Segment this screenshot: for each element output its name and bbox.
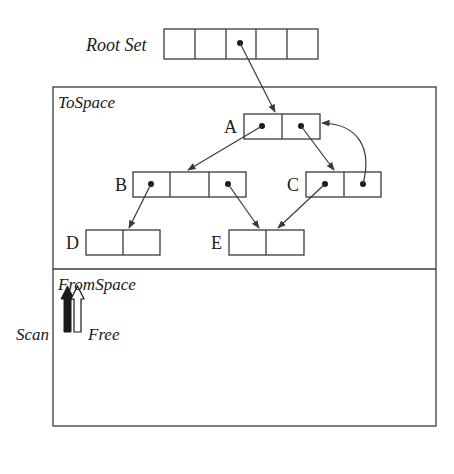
- from-space-label: FromSpace: [57, 275, 136, 294]
- node-d-record: [86, 230, 160, 255]
- edge-b-to-d: [129, 184, 151, 228]
- root-set-label: Root Set: [85, 35, 147, 55]
- node-c-record: [306, 172, 381, 197]
- scan-label: Scan: [16, 325, 49, 344]
- node-e-record: [229, 230, 304, 255]
- edge-root-to-a: [240, 43, 275, 112]
- node-b-label: B: [115, 175, 127, 195]
- node-c-label: C: [287, 175, 299, 195]
- free-label: Free: [87, 325, 120, 344]
- node-e-label: E: [211, 233, 222, 253]
- edge-a-to-c: [301, 126, 334, 170]
- to-space-label: ToSpace: [58, 93, 115, 112]
- gc-diagram: Root Set ToSpace FromSpace Scan Free A B…: [0, 0, 454, 474]
- node-a-label: A: [224, 117, 237, 137]
- edge-b-to-e: [228, 184, 259, 228]
- node-d-label: D: [66, 233, 79, 253]
- edge-c-to-e: [278, 184, 325, 228]
